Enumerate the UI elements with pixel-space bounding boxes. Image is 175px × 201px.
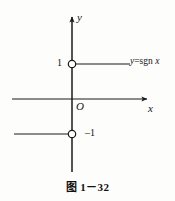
x-axis-label: x (148, 103, 153, 114)
y-tick-label-negative-one: –1 (85, 128, 95, 138)
open-point-negative-icon (68, 130, 75, 137)
function-label: y=sgn x (130, 57, 159, 67)
y-tick-label-one: 1 (57, 58, 62, 68)
open-point-positive-icon (68, 60, 75, 67)
origin-label: O (76, 101, 84, 112)
figure-sgn-function: y x O 1 –1 y=sgn x 图 1－32 (0, 0, 175, 201)
plot-canvas (0, 0, 175, 201)
figure-caption: 图 1－32 (0, 178, 175, 194)
function-label-expression: sgn (140, 56, 156, 66)
y-axis-label: y (77, 12, 82, 23)
function-label-argument: x (155, 56, 159, 66)
